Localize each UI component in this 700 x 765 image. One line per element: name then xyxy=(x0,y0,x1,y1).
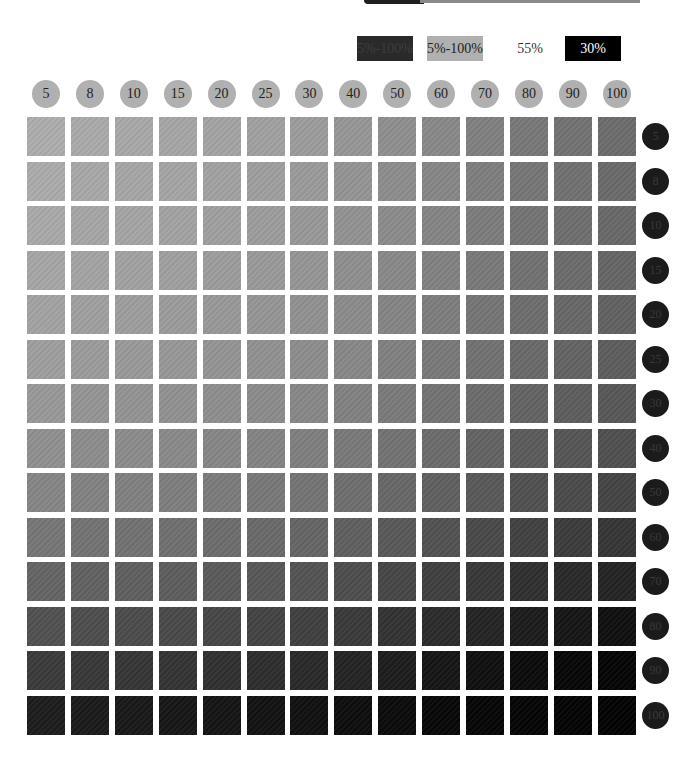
tint-cell-r70-c40 xyxy=(334,562,372,601)
tint-cell-r8-c8 xyxy=(71,162,109,201)
tint-cell-r70-c60 xyxy=(422,562,460,601)
tint-cell-r40-c25 xyxy=(247,429,285,468)
tint-cell-r25-c8 xyxy=(71,340,109,379)
row-header-30: 30 xyxy=(642,390,669,417)
tint-cell-r10-c80 xyxy=(510,206,548,245)
tint-cell-r80-c20 xyxy=(203,607,241,646)
tint-cell-r90-c60 xyxy=(422,651,460,690)
tint-cell-r5-c100 xyxy=(598,117,636,156)
tint-cell-r30-c100 xyxy=(598,384,636,423)
column-header-90: 90 xyxy=(559,80,587,108)
tint-cell-r20-c50 xyxy=(378,295,416,334)
tint-cell-r80-c15 xyxy=(159,607,197,646)
tint-cell-r90-c100 xyxy=(598,651,636,690)
tint-cell-r70-c5 xyxy=(27,562,65,601)
row-header-100: 100 xyxy=(642,702,669,729)
tint-cell-r20-c100 xyxy=(598,295,636,334)
tint-cell-r25-c20 xyxy=(203,340,241,379)
tint-cell-r40-c90 xyxy=(554,429,592,468)
tint-cell-r10-c10 xyxy=(115,206,153,245)
tint-cell-r20-c10 xyxy=(115,295,153,334)
tint-cell-r60-c60 xyxy=(422,518,460,557)
tint-cell-r30-c10 xyxy=(115,384,153,423)
tint-cell-r20-c20 xyxy=(203,295,241,334)
tint-cell-r40-c5 xyxy=(27,429,65,468)
tint-cell-r40-c30 xyxy=(290,429,328,468)
tint-cell-r25-c60 xyxy=(422,340,460,379)
tint-cell-r8-c70 xyxy=(466,162,504,201)
tint-cell-r30-c25 xyxy=(247,384,285,423)
tint-cell-r60-c8 xyxy=(71,518,109,557)
tint-cell-r25-c100 xyxy=(598,340,636,379)
tint-cell-r10-c25 xyxy=(247,206,285,245)
top-rule xyxy=(420,0,640,3)
column-header-30: 30 xyxy=(295,80,323,108)
tint-cell-r20-c15 xyxy=(159,295,197,334)
tint-cell-r90-c5 xyxy=(27,651,65,690)
tint-cell-r15-c25 xyxy=(247,251,285,290)
row-header-80: 80 xyxy=(642,613,669,640)
tint-cell-r50-c40 xyxy=(334,473,372,512)
tint-cell-r10-c30 xyxy=(290,206,328,245)
tint-cell-r40-c10 xyxy=(115,429,153,468)
tint-cell-r8-c30 xyxy=(290,162,328,201)
tint-cell-r40-c60 xyxy=(422,429,460,468)
tint-cell-r5-c15 xyxy=(159,117,197,156)
tint-cell-r40-c15 xyxy=(159,429,197,468)
tint-cell-r8-c20 xyxy=(203,162,241,201)
row-header-60: 60 xyxy=(642,524,669,551)
tint-cell-r20-c30 xyxy=(290,295,328,334)
tint-cell-r100-c8 xyxy=(71,696,109,735)
tint-cell-r10-c70 xyxy=(466,206,504,245)
tint-cell-r50-c50 xyxy=(378,473,416,512)
tint-cell-r5-c25 xyxy=(247,117,285,156)
tint-cell-r25-c50 xyxy=(378,340,416,379)
tint-cell-r50-c90 xyxy=(554,473,592,512)
tint-cell-r60-c25 xyxy=(247,518,285,557)
tint-cell-r10-c5 xyxy=(27,206,65,245)
tint-cell-r70-c10 xyxy=(115,562,153,601)
column-header-100: 100 xyxy=(603,80,631,108)
tint-cell-r25-c70 xyxy=(466,340,504,379)
tint-cell-r15-c5 xyxy=(27,251,65,290)
row-header-15: 15 xyxy=(642,257,669,284)
tint-cell-r5-c90 xyxy=(554,117,592,156)
tint-cell-r60-c40 xyxy=(334,518,372,557)
tint-cell-r80-c10 xyxy=(115,607,153,646)
tint-cell-r50-c5 xyxy=(27,473,65,512)
tint-cell-r50-c70 xyxy=(466,473,504,512)
tint-cell-r20-c90 xyxy=(554,295,592,334)
tint-cell-r80-c80 xyxy=(510,607,548,646)
tint-cell-r90-c15 xyxy=(159,651,197,690)
tint-cell-r100-c30 xyxy=(290,696,328,735)
tint-cell-r20-c40 xyxy=(334,295,372,334)
tint-cell-r40-c8 xyxy=(71,429,109,468)
tint-cell-r90-c8 xyxy=(71,651,109,690)
tint-cell-r15-c20 xyxy=(203,251,241,290)
tint-cell-r25-c10 xyxy=(115,340,153,379)
row-header-50: 50 xyxy=(642,479,669,506)
tint-cell-r8-c80 xyxy=(510,162,548,201)
tint-cell-r8-c25 xyxy=(247,162,285,201)
tint-cell-r80-c90 xyxy=(554,607,592,646)
tint-cell-r40-c100 xyxy=(598,429,636,468)
tint-cell-r20-c80 xyxy=(510,295,548,334)
tint-cell-r80-c30 xyxy=(290,607,328,646)
tint-cell-r50-c10 xyxy=(115,473,153,512)
legend-swatch-black: 30% xyxy=(565,36,621,61)
tint-cell-r80-c60 xyxy=(422,607,460,646)
tint-cell-r5-c30 xyxy=(290,117,328,156)
tint-cell-r60-c15 xyxy=(159,518,197,557)
tint-cell-r70-c90 xyxy=(554,562,592,601)
tint-cell-r70-c50 xyxy=(378,562,416,601)
tint-cell-r50-c60 xyxy=(422,473,460,512)
tint-cell-r30-c5 xyxy=(27,384,65,423)
tint-cell-r10-c100 xyxy=(598,206,636,245)
column-header-5: 5 xyxy=(32,80,60,108)
tint-cell-r100-c50 xyxy=(378,696,416,735)
tint-cell-r10-c60 xyxy=(422,206,460,245)
tint-cell-r100-c25 xyxy=(247,696,285,735)
row-header-10: 10 xyxy=(642,212,669,239)
tint-cell-r25-c25 xyxy=(247,340,285,379)
tint-cell-r40-c40 xyxy=(334,429,372,468)
